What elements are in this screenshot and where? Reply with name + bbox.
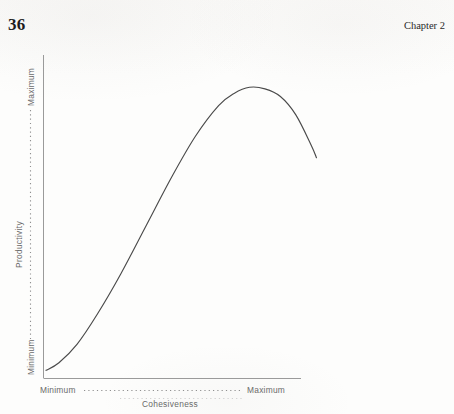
x-axis-title: Cohesiveness xyxy=(142,399,198,409)
textbook-page: 36 Chapter 2 Maximum Minimum Productivit… xyxy=(0,0,454,414)
y-axis-title: Productivity xyxy=(14,221,24,268)
productivity-curve xyxy=(46,87,316,370)
x-axis-min-label: Minimum xyxy=(40,385,76,395)
x-axis-max-label: Maximum xyxy=(247,385,285,395)
productivity-cohesiveness-chart: Maximum Minimum Productivity Minimum Max… xyxy=(0,0,454,414)
y-axis-min-label: Minimum xyxy=(26,339,36,375)
y-axis-max-label: Maximum xyxy=(26,68,36,106)
